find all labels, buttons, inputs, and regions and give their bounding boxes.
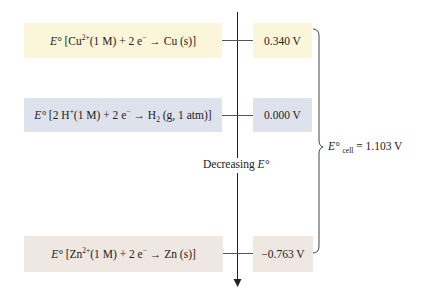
- zn-half-reaction-text: E° [Zn2+(1 M) + 2 e− → Zn (s)]: [51, 248, 196, 260]
- decreasing-e-label: Decreasing E°: [203, 158, 269, 170]
- cu-tick: [222, 40, 253, 41]
- cell-potential-label: E° cell = 1.103 V: [328, 140, 402, 152]
- h-tick: [222, 115, 253, 116]
- h-half-reaction-text: E° [2 H+(1 M) + 2 e− → H2 (g, 1 atm)]: [34, 109, 211, 121]
- zn-half-reaction-box: E° [Zn2+(1 M) + 2 e− → Zn (s)]: [24, 236, 223, 272]
- h-potential-value-box: 0.000 V: [253, 98, 312, 132]
- zn-potential-value-box: −0.763 V: [253, 236, 313, 272]
- zn-potential-value: −0.763 V: [261, 248, 304, 260]
- zn-tick: [223, 253, 253, 254]
- cell-potential-brace: [313, 29, 323, 253]
- h-half-reaction-box: E° [2 H+(1 M) + 2 e− → H2 (g, 1 atm)]: [24, 98, 222, 132]
- cu-half-reaction-text: E° [Cu2+(1 M) + 2 e− → Cu (s)]: [50, 35, 196, 47]
- cu-half-reaction-box: E° [Cu2+(1 M) + 2 e− → Cu (s)]: [24, 23, 222, 58]
- h-potential-value: 0.000 V: [264, 109, 301, 121]
- cu-potential-value-box: 0.340 V: [253, 23, 312, 58]
- cu-potential-value: 0.340 V: [264, 35, 301, 47]
